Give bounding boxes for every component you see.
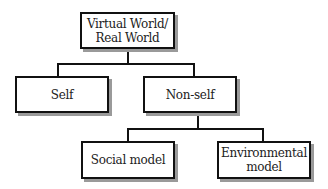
self-node: Self [15,76,109,113]
connector-level1-bar [57,63,195,65]
social-model-node: Social model [81,141,175,179]
environmental-model-node: Environmental model [217,141,311,179]
self-label: Self [51,88,73,102]
connector-level2-bar [127,128,264,130]
connector-to-nonself [193,63,195,77]
connector-to-environmental [262,128,264,142]
root-line2: Real World [96,31,160,45]
social-model-label: Social model [91,153,165,167]
nonself-node: Non-self [143,76,237,113]
root-line1: Virtual World/ [87,17,168,31]
hierarchy-diagram: Virtual World/ Real World Self Non-self … [0,0,328,189]
environmental-line2: model [246,160,282,174]
connector-to-self [57,63,59,77]
connector-to-social [127,128,129,142]
nonself-label: Non-self [166,88,215,102]
environmental-line1: Environmental [221,146,307,160]
root-node: Virtual World/ Real World [80,12,175,49]
